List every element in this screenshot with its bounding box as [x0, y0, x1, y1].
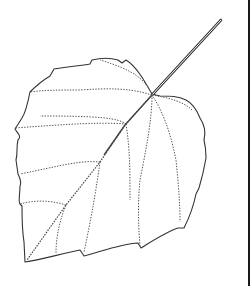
midrib — [27, 95, 152, 260]
right-border-line — [248, 0, 250, 286]
leaf-drawing — [0, 0, 251, 286]
leaf-illustration — [0, 0, 251, 286]
